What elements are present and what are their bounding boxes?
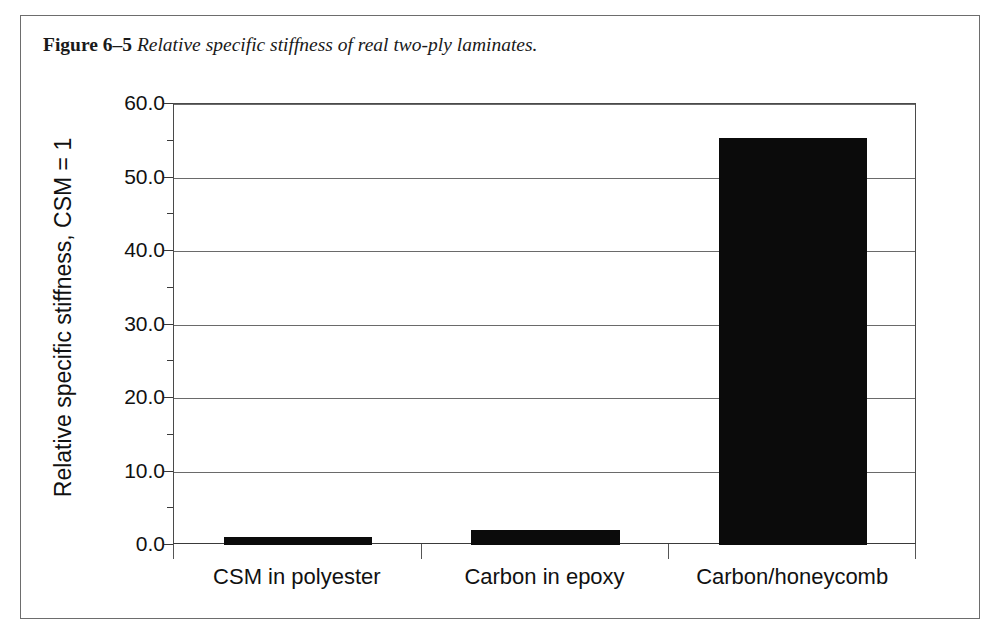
y-axis-tick-label: 10.0 — [85, 459, 165, 483]
category-separator — [668, 544, 669, 559]
category-separator — [421, 544, 422, 559]
figure-frame: Figure 6–5 Relative specific stiffness o… — [20, 15, 980, 619]
y-axis-major-tick — [164, 250, 173, 251]
category-separator — [173, 544, 174, 559]
y-axis-tick-label: 0.0 — [85, 532, 165, 556]
y-axis-tick-label: 40.0 — [85, 238, 165, 262]
x-axis-tick-label: Carbon in epoxy — [421, 564, 669, 598]
gridline — [174, 104, 915, 105]
y-axis-major-tick — [164, 177, 173, 178]
y-axis-title: Relative specific stiffness, CSM = 1 — [50, 108, 77, 528]
y-axis-tick-label: 60.0 — [85, 91, 165, 115]
plot-area — [173, 103, 916, 544]
bar-chart: Relative specific stiffness, CSM = 1 0.0… — [21, 16, 981, 620]
y-axis-major-tick — [164, 471, 173, 472]
y-axis-major-tick — [164, 544, 173, 545]
y-axis-tick-labels: 0.010.020.030.040.050.060.0 — [81, 103, 165, 544]
y-axis-major-tick — [164, 324, 173, 325]
y-axis-tick-label: 20.0 — [85, 385, 165, 409]
category-separators — [173, 544, 916, 560]
x-axis-tick-label: Carbon/honeycomb — [668, 564, 916, 598]
category-separator — [915, 544, 916, 559]
bar — [719, 138, 868, 545]
x-axis-tick-label: CSM in polyester — [173, 564, 421, 598]
y-axis-tick-label: 30.0 — [85, 312, 165, 336]
bar — [471, 530, 620, 545]
y-axis-major-tick — [164, 103, 173, 104]
y-axis-tick-label: 50.0 — [85, 165, 165, 189]
y-axis-major-tick — [164, 397, 173, 398]
x-axis-tick-labels: CSM in polyesterCarbon in epoxyCarbon/ho… — [173, 564, 916, 598]
